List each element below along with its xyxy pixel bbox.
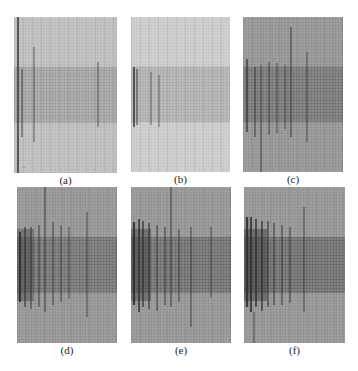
- panel-label-e: (e): [131, 344, 231, 356]
- mesh-grid-image: [131, 17, 230, 172]
- panel-a: [14, 17, 117, 173]
- panel-d: [17, 187, 117, 343]
- mesh-grid-image: [17, 187, 117, 343]
- mesh-grid-image: [243, 17, 343, 172]
- mesh-grid-image: [244, 187, 345, 343]
- panel-label-f: (f): [245, 344, 345, 356]
- panel-label-d: (d): [17, 344, 117, 356]
- panel-label-a: (a): [16, 174, 116, 186]
- panel-label-c: (c): [243, 173, 343, 185]
- panel-label-b: (b): [131, 173, 231, 185]
- panel-c: [243, 17, 343, 172]
- mesh-grid-image: [14, 17, 117, 173]
- panel-f: [244, 187, 345, 343]
- panel-b: [131, 17, 230, 172]
- mesh-grid-image: [131, 187, 231, 343]
- panel-e: [131, 187, 231, 343]
